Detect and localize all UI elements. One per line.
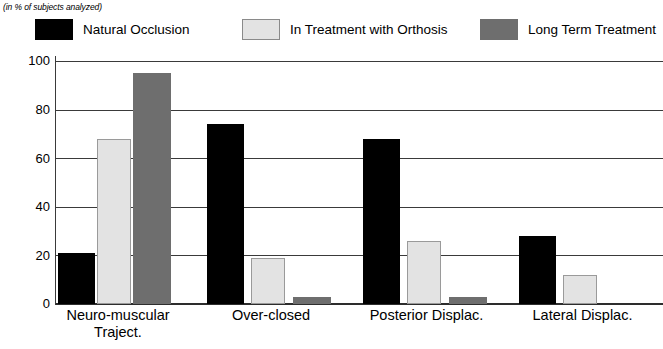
bar-long-term-treatment-g3 bbox=[449, 297, 487, 304]
x-label-line1-g1: Neuro-muscular bbox=[66, 307, 169, 323]
bar-in-treatment-with-orthosis-g4 bbox=[563, 275, 597, 304]
bar-natural-occlusion-g4 bbox=[519, 236, 556, 304]
bar-long-term-treatment-g2 bbox=[293, 297, 331, 304]
x-axis-labels: Neuro-muscular Traject. Over-closed Post… bbox=[0, 307, 663, 349]
bar-natural-occlusion-g1 bbox=[58, 253, 95, 304]
bar-group-lateral-displac bbox=[519, 61, 647, 304]
x-label-over-closed: Over-closed bbox=[206, 307, 336, 324]
chart-page: (in % of subjects analyzed) Natural Occl… bbox=[0, 0, 663, 349]
x-label-line1-g3: Posterior Displac. bbox=[370, 307, 484, 323]
bar-in-treatment-with-orthosis-g1 bbox=[97, 139, 131, 304]
x-label-line1-g4: Lateral Displac. bbox=[533, 307, 633, 323]
x-label-neuro-muscular-traject: Neuro-muscular Traject. bbox=[48, 307, 188, 341]
bar-group-over-closed bbox=[207, 61, 335, 304]
bar-group-neuro-muscular-traject bbox=[58, 61, 173, 304]
bar-in-treatment-with-orthosis-g3 bbox=[407, 241, 441, 304]
bar-long-term-treatment-g1 bbox=[133, 73, 171, 304]
bars-layer bbox=[0, 0, 663, 349]
x-label-line1-g2: Over-closed bbox=[232, 307, 310, 323]
x-label-line2-g1: Traject. bbox=[48, 324, 188, 341]
x-label-posterior-displac: Posterior Displac. bbox=[360, 307, 493, 324]
bar-natural-occlusion-g2 bbox=[207, 124, 244, 304]
bar-natural-occlusion-g3 bbox=[363, 139, 400, 304]
x-label-lateral-displac: Lateral Displac. bbox=[516, 307, 649, 324]
bar-in-treatment-with-orthosis-g2 bbox=[251, 258, 285, 304]
bar-group-posterior-displac bbox=[363, 61, 491, 304]
